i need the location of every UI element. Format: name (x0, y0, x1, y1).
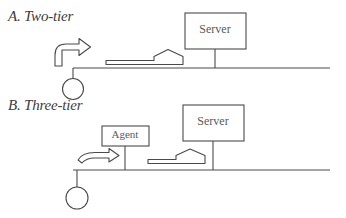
panel-caption-three-tier: B. Three-tier (8, 97, 82, 114)
client-to-server-arrow-two-tier (106, 50, 183, 65)
agent-label-three-tier: Agent (102, 128, 148, 140)
client-uplink-arrow-two-tier (55, 39, 91, 67)
panel-caption-two-tier: A. Two-tier (8, 8, 73, 25)
client-to-agent-arrow (78, 149, 119, 164)
agent-to-server-arrow (148, 149, 205, 164)
server-label-two-tier: Server (185, 22, 245, 37)
server-label-three-tier: Server (183, 114, 243, 129)
client-circle-three-tier (66, 187, 88, 209)
